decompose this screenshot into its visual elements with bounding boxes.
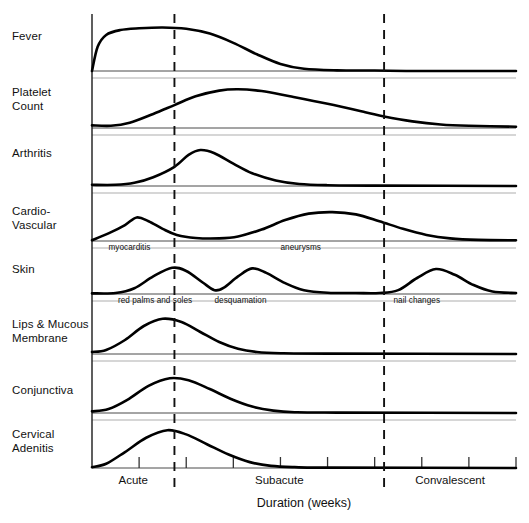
- row-label-skin: Skin: [12, 263, 35, 277]
- row-label-lips-mucous-membrane: Lips & Mucous Membrane: [12, 318, 89, 345]
- curve-lips-mucous-membrane: [92, 319, 516, 354]
- annotation-red-palms-and-soles: red palms and soles: [118, 296, 192, 305]
- curve-cardio-vascular: [92, 212, 516, 240]
- curve-platelet-count: [92, 89, 516, 126]
- annotation-aneurysms: aneurysms: [280, 243, 321, 252]
- row-label-cardio-vascular: Cardio- Vascular: [12, 205, 57, 232]
- curve-conjunctiva: [92, 378, 516, 413]
- clinical-course-chart: FeverPlatelet CountArthritisCardio- Vasc…: [0, 0, 529, 523]
- chart-canvas: [0, 0, 529, 523]
- phase-label-subacute: Subacute: [255, 474, 304, 487]
- x-axis-title: Duration (weeks): [257, 496, 351, 510]
- row-label-platelet-count: Platelet Count: [12, 86, 51, 113]
- row-label-arthritis: Arthritis: [12, 147, 52, 161]
- row-label-fever: Fever: [12, 30, 42, 44]
- curve-cervical-adenitis: [92, 430, 516, 468]
- row-label-cervical-adenitis: Cervical Adenitis: [12, 428, 54, 455]
- curve-skin: [92, 268, 516, 294]
- annotation-myocarditis: myocarditis: [108, 243, 150, 252]
- annotation-nail-changes: nail changes: [394, 296, 441, 305]
- annotation-desquamation: desquamation: [214, 296, 266, 305]
- phase-label-convalescent: Convalescent: [415, 474, 485, 487]
- phase-label-acute: Acute: [119, 474, 148, 487]
- curve-fever: [92, 27, 516, 71]
- curve-arthritis: [92, 150, 516, 186]
- row-label-conjunctiva: Conjunctiva: [12, 384, 73, 398]
